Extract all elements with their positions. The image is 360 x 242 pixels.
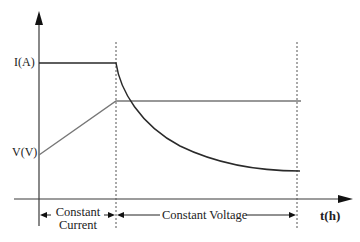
cc-left-arrow-icon [40, 212, 47, 218]
current-axis-label: I(A) [14, 55, 35, 70]
constant-voltage-label: Constant Voltage [162, 209, 247, 222]
current-curve [39, 63, 300, 171]
time-axis-label: t(h) [320, 208, 340, 224]
constant-current-label: Constant Current [52, 206, 104, 232]
cv-left-arrow-icon [117, 212, 124, 218]
cc-right-arrow-icon [108, 212, 115, 218]
constant-current-line2: Current [52, 219, 104, 232]
voltage-curve [39, 101, 301, 155]
cv-right-arrow-icon [289, 212, 296, 218]
voltage-axis-label: V(V) [12, 145, 37, 160]
x-axis-arrow-icon [338, 195, 353, 203]
y-axis-arrow-icon [35, 11, 43, 25]
